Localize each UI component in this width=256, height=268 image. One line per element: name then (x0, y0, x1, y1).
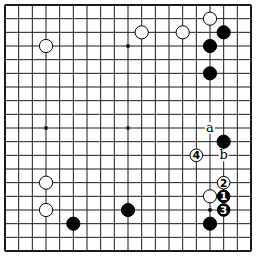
black-stone-icon (203, 39, 216, 52)
black-stone-3: 3 (217, 204, 230, 217)
white-stone-icon (39, 39, 52, 52)
white-stone-2: 2 (217, 176, 230, 189)
white-stone (203, 12, 216, 25)
black-stone (203, 67, 216, 80)
marker-label-b: b (220, 147, 228, 162)
black-stone (203, 217, 216, 230)
move-number: 3 (220, 204, 227, 216)
white-stone (135, 26, 148, 39)
white-stone-icon (176, 26, 189, 39)
white-stone-icon (203, 190, 216, 203)
go-board-diagram: ab 1234 (0, 0, 256, 268)
black-stone-icon (217, 26, 230, 39)
star-point-icon (208, 208, 212, 212)
marker-label-a: a (206, 120, 214, 135)
white-stone (39, 203, 52, 216)
white-stone (176, 26, 189, 39)
white-stone (39, 176, 52, 189)
black-stone-icon (203, 67, 216, 80)
star-point-icon (44, 126, 48, 130)
black-stone-icon (121, 203, 134, 216)
white-stone-icon (39, 203, 52, 216)
white-stone-icon (203, 12, 216, 25)
white-stone (39, 39, 52, 52)
white-stone-4: 4 (190, 149, 203, 162)
black-stone (203, 39, 216, 52)
move-number: 1 (220, 190, 227, 202)
black-stone (217, 135, 230, 148)
white-stone-icon (39, 176, 52, 189)
black-stone-1: 1 (217, 190, 230, 203)
star-point-icon (126, 44, 130, 48)
move-number: 4 (193, 149, 200, 161)
black-stone (217, 26, 230, 39)
white-stone (203, 190, 216, 203)
star-point-icon (126, 126, 130, 130)
black-stone (67, 217, 80, 230)
black-stone-icon (67, 217, 80, 230)
move-number: 2 (220, 177, 227, 189)
black-stone (121, 203, 134, 216)
black-stone-icon (217, 135, 230, 148)
black-stone-icon (203, 217, 216, 230)
white-stone-icon (135, 26, 148, 39)
